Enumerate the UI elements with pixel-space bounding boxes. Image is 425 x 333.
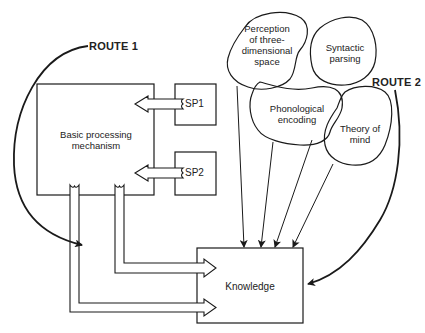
sp1-arrow bbox=[135, 96, 183, 112]
perception-module-label: Perception of three- dimensional space bbox=[232, 23, 302, 67]
syntactic-line2: parsing bbox=[315, 53, 375, 64]
perception-line2: of three- bbox=[232, 34, 302, 45]
sp1-label: SP1 bbox=[185, 98, 204, 109]
theory-line2: mind bbox=[330, 134, 390, 145]
phonological-line2: encoding bbox=[257, 114, 337, 125]
perception-line1: Perception bbox=[232, 23, 302, 34]
perception-line3: dimensional bbox=[232, 45, 302, 56]
outer-pipe-arrow bbox=[70, 185, 216, 316]
inner-pipe-arrow bbox=[115, 185, 216, 277]
syntactic-line1: Syntactic bbox=[315, 42, 375, 53]
knowledge-label: Knowledge bbox=[200, 281, 300, 292]
basic-processing-label: Basic processing mechanism bbox=[40, 129, 152, 151]
theory-line1: Theory of bbox=[330, 123, 390, 134]
phonological-to-knowledge-arrow-1 bbox=[261, 142, 273, 247]
perception-line4: space bbox=[232, 56, 302, 67]
basic-processing-line1: Basic processing bbox=[40, 129, 152, 140]
sp2-label: SP2 bbox=[185, 167, 204, 178]
route2-label: ROUTE 2 bbox=[372, 76, 421, 88]
sp2-arrow bbox=[135, 165, 183, 181]
basic-processing-line2: mechanism bbox=[40, 140, 152, 151]
phonological-module-label: Phonological encoding bbox=[257, 103, 337, 125]
phonological-line1: Phonological bbox=[257, 103, 337, 114]
phonological-to-knowledge-arrow-2 bbox=[275, 140, 312, 247]
perception-to-knowledge-arrow bbox=[237, 86, 244, 247]
route1-label: ROUTE 1 bbox=[89, 40, 138, 52]
theory-module-label: Theory of mind bbox=[330, 123, 390, 145]
syntactic-module-label: Syntactic parsing bbox=[315, 42, 375, 64]
